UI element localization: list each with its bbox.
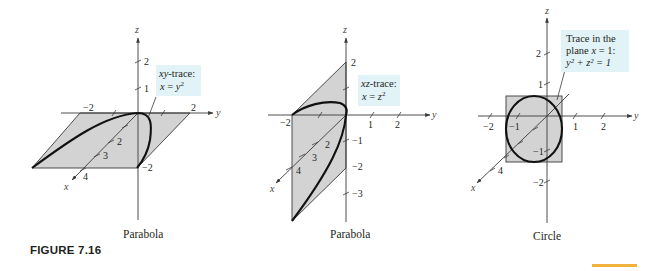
tick-label: 4 — [498, 165, 503, 176]
tick-label: 3 — [103, 150, 108, 161]
tick-label: −2 — [142, 162, 153, 173]
tick-label: 2 — [536, 48, 541, 59]
callout-text-line-2: plane x = 1: — [566, 45, 615, 56]
tick-label: −2 — [352, 161, 363, 172]
tick-label: −1 — [533, 146, 544, 157]
x-axis-label: x — [63, 181, 69, 192]
tick-label: −2 — [280, 117, 291, 128]
y-axis-label: y — [215, 107, 221, 118]
tick-label: 1 — [144, 83, 149, 94]
panel-caption: Parabola — [330, 228, 370, 240]
callout-text: xy-trace: — [158, 68, 195, 79]
tick-label: 2 — [191, 102, 196, 113]
panel-xy-trace: z y x 1 2 −2 2 2 3 4 −2 xy-trace: — [32, 24, 221, 240]
x-axis-label: x — [269, 183, 275, 194]
tick-label: 2 — [117, 136, 122, 147]
tick-label: 2 — [395, 119, 400, 130]
figure-7-16: z y x 1 2 −2 2 2 3 4 −2 xy-trace: — [0, 0, 666, 271]
tick-label: 2 — [601, 121, 606, 132]
panel-circle-trace: z y x 2 1 −1 −2 −2 −1 1 2 4 — [470, 5, 639, 242]
z-axis-label: z — [544, 5, 549, 16]
y-axis-label: y — [633, 110, 639, 121]
figure-label: FIGURE 7.16 — [30, 244, 101, 256]
tick-label: −2 — [483, 121, 494, 132]
tick-label: 2 — [144, 56, 149, 67]
z-axis-label: z — [342, 24, 347, 35]
tick-label: −2 — [83, 102, 94, 113]
panel-caption: Parabola — [123, 228, 163, 240]
x-axis-label: x — [470, 182, 476, 193]
tick-label: 2 — [325, 139, 330, 150]
callout-equation: y² + z² = 1 — [565, 57, 611, 68]
tick-label: 2 — [351, 57, 356, 68]
tick-label: −3 — [352, 188, 363, 199]
tick-label: −1 — [352, 135, 363, 146]
tick-label: 1 — [368, 119, 373, 130]
panel-xz-trace: z y x 2 −1 −2 −3 −2 1 2 2 3 4 xz-trace: — [268, 24, 437, 240]
tick-label: 4 — [83, 171, 88, 182]
callout-text: xz-trace: — [360, 78, 397, 89]
y-axis-label: y — [431, 109, 437, 120]
callout-leader — [557, 70, 565, 100]
z-axis-label: z — [134, 24, 139, 35]
accent-bar — [592, 264, 637, 267]
tick-label: −2 — [533, 177, 544, 188]
tick-label: 1 — [538, 79, 543, 90]
callout-text-line-1: Trace in the — [566, 33, 616, 44]
tick-label: 3 — [312, 152, 317, 163]
panel-caption: Circle — [533, 230, 561, 242]
tick-label: 4 — [296, 165, 301, 176]
tick-label: −1 — [509, 121, 520, 132]
tick-label: 1 — [573, 121, 578, 132]
